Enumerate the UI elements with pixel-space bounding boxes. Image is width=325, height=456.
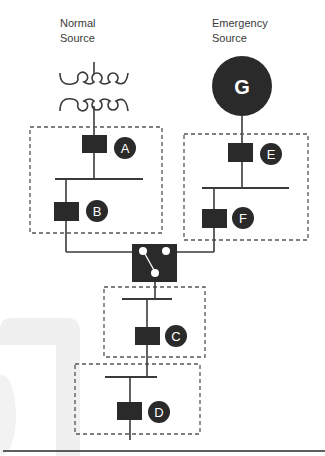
generator-icon: G [212, 56, 272, 144]
breaker-d[interactable]: D [117, 401, 170, 423]
breaker-a-label: A [121, 141, 130, 156]
generator-letter: G [234, 76, 250, 98]
normal-source-label-line2: Source [60, 32, 95, 44]
breaker-a[interactable]: A [82, 135, 136, 159]
breaker-c-label: C [171, 329, 180, 344]
emergency-source-label-line2: Source [212, 32, 247, 44]
transformer-icon [60, 62, 128, 136]
breaker-e-label: E [267, 147, 276, 162]
breaker-f[interactable]: F [202, 207, 254, 229]
one-line-diagram: Normal Source Emergency Source G [0, 0, 325, 456]
breaker-d-label: D [154, 405, 163, 420]
watermark [0, 318, 80, 456]
breaker-b-label: B [93, 204, 102, 219]
emergency-source-label-line1: Emergency [212, 17, 268, 29]
breaker-c[interactable]: C [135, 325, 187, 347]
breaker-b[interactable]: B [54, 200, 108, 222]
automatic-transfer-switch-icon[interactable] [132, 244, 177, 282]
breaker-f-label: F [239, 211, 247, 226]
normal-source-label-line1: Normal [60, 17, 95, 29]
breaker-e[interactable]: E [228, 143, 282, 165]
wiring [55, 136, 289, 440]
branch-panel-box [75, 364, 200, 434]
